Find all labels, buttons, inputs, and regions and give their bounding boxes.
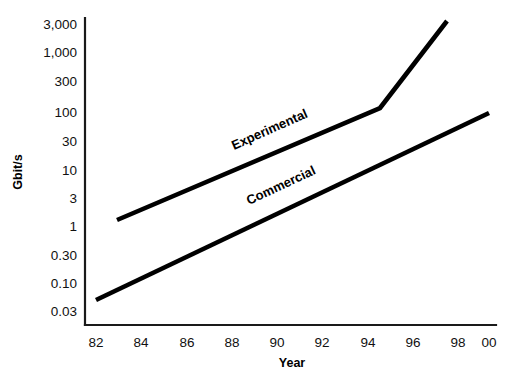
line-chart: 3,000 1,000 300 100 30 10 3 1 0.30 0.10 … xyxy=(0,0,508,378)
y-tick-label: 1,000 xyxy=(43,45,77,60)
y-tick-label: 3,000 xyxy=(43,17,77,32)
y-tick-label: 3 xyxy=(69,191,77,206)
y-tick-label: 30 xyxy=(62,134,77,149)
y-axis-title: Gbit/s xyxy=(11,154,25,189)
x-tick-label: 92 xyxy=(314,335,329,350)
y-tick-label: 0.10 xyxy=(51,276,77,291)
x-tick-label: 96 xyxy=(405,335,420,350)
y-tick-label: 0.03 xyxy=(51,304,77,319)
x-tick-label: 88 xyxy=(224,335,239,350)
x-tick-label: 94 xyxy=(360,335,376,350)
y-tick-label: 300 xyxy=(54,74,77,89)
y-tick-label: 10 xyxy=(62,163,77,178)
y-tick-label: 100 xyxy=(54,105,77,120)
x-tick-label: 86 xyxy=(179,335,194,350)
chart-container: 3,000 1,000 300 100 30 10 3 1 0.30 0.10 … xyxy=(0,0,508,378)
x-tick-label: 98 xyxy=(450,335,465,350)
x-axis-title: Year xyxy=(279,356,306,370)
x-tick-label: 00 xyxy=(481,335,496,350)
x-tick-label: 90 xyxy=(269,335,284,350)
x-tick-label: 84 xyxy=(133,335,149,350)
x-tick-label: 82 xyxy=(88,335,103,350)
y-tick-label: 1 xyxy=(69,219,77,234)
y-tick-label: 0.30 xyxy=(51,248,77,263)
